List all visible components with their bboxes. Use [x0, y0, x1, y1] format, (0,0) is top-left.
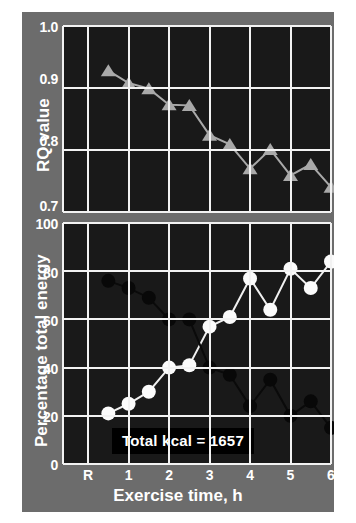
gridline-vertical — [249, 223, 251, 464]
gridline-vertical — [168, 26, 170, 212]
gridline-horizontal — [63, 367, 331, 369]
gridline-vertical — [128, 223, 130, 464]
data-point-circle — [263, 373, 277, 387]
gridline-vertical — [249, 26, 251, 212]
axis-line — [330, 26, 332, 212]
axis-line — [63, 25, 331, 27]
x-tick-label: 2 — [157, 467, 181, 483]
axis-line — [63, 222, 331, 224]
x-tick-label: R — [76, 467, 100, 483]
gridline-horizontal — [63, 149, 331, 151]
gridline-vertical — [209, 223, 211, 464]
x-tick-label: 4 — [238, 467, 262, 483]
data-point-circle — [142, 385, 156, 399]
gridline-vertical — [290, 223, 292, 464]
gridline-vertical — [87, 26, 89, 212]
data-point-circle — [101, 406, 115, 420]
data-point-circle — [324, 421, 334, 435]
data-point-circle — [101, 274, 115, 288]
axis-line — [330, 223, 332, 464]
gridline-horizontal — [63, 87, 331, 89]
x-tick-label: 5 — [279, 467, 303, 483]
x-axis-title: Exercise time, h — [22, 486, 334, 506]
axis-line — [63, 463, 331, 465]
x-tick-label: 6 — [319, 467, 334, 483]
x-tick-label: 1 — [117, 467, 141, 483]
axis-line — [62, 223, 64, 464]
data-point-circle — [182, 358, 196, 372]
data-point-circle — [223, 310, 237, 324]
gridline-vertical — [209, 26, 211, 212]
gridline-horizontal — [63, 270, 331, 272]
x-tick-label: 3 — [198, 467, 222, 483]
data-point-circle — [142, 291, 156, 305]
gridline-vertical — [87, 223, 89, 464]
axis-line — [63, 211, 331, 213]
figure-canvas: RQ value 1.0 0.9 0.8 0.7 Percentage tota… — [22, 12, 334, 512]
data-point-circle — [223, 368, 237, 382]
data-point-circle — [304, 394, 318, 408]
data-point-circle — [304, 281, 318, 295]
series-line — [108, 262, 331, 414]
data-point-circle — [324, 255, 334, 269]
gridline-horizontal — [63, 318, 331, 320]
series-line — [108, 281, 331, 428]
gridline-horizontal — [63, 415, 331, 417]
axis-line — [62, 26, 64, 212]
gridline-vertical — [168, 223, 170, 464]
data-point-circle — [263, 303, 277, 317]
total-kcal-annotation: Total kcal = 1657 — [112, 428, 254, 454]
gridline-vertical — [128, 26, 130, 212]
gridline-vertical — [290, 26, 292, 212]
